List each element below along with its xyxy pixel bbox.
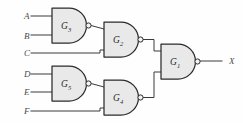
wire-f-to-g4 <box>31 108 104 111</box>
wire-c-to-g2 <box>31 50 104 53</box>
gate-g5-inversion-bubble <box>86 81 91 86</box>
input-label-d: D <box>23 69 31 79</box>
input-label-b: B <box>24 31 30 41</box>
gate-g4-inversion-bubble <box>138 95 143 100</box>
gate-g2[interactable]: G2 <box>104 22 143 57</box>
gate-g3-inversion-bubble <box>86 23 91 28</box>
gate-g4[interactable]: G4 <box>104 80 143 115</box>
gate-g3[interactable]: G3 <box>52 8 91 43</box>
logic-circuit-figure: G3 G2 G5 G4 <box>0 0 243 123</box>
circuit-canvas: G3 G2 G5 G4 <box>0 0 243 123</box>
wire-g4-to-g1 <box>143 72 161 98</box>
wire-g3-to-g2 <box>91 26 104 30</box>
output-label-x: X <box>228 56 235 66</box>
input-label-c: C <box>24 48 31 58</box>
input-label-a: A <box>23 11 30 21</box>
input-label-f: F <box>23 106 30 116</box>
wire-g2-to-g1 <box>143 40 161 52</box>
gate-g1[interactable]: G1 <box>161 44 200 79</box>
gate-g5[interactable]: G5 <box>52 66 91 101</box>
gate-g1-inversion-bubble <box>195 59 200 64</box>
input-label-e: E <box>23 87 30 97</box>
gate-g2-inversion-bubble <box>138 37 143 42</box>
wire-g5-to-g4 <box>91 84 104 88</box>
